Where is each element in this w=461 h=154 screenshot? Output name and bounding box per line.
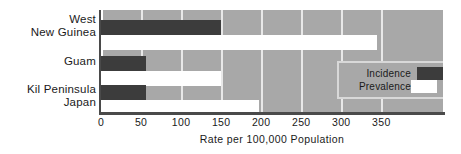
x-tick-label-100: 100 [172,116,190,128]
plot-area: Incidence Prevalence [101,10,443,113]
gridline-250 [301,10,303,113]
x-tick-label-200: 200 [252,116,270,128]
x-tick-label-300: 300 [332,116,350,128]
bar-incidence-guam [101,56,146,71]
category-label-guam: Guam [0,55,96,68]
x-axis-tick-labels: 050100150200250300350 [0,116,461,132]
x-tick-label-50: 50 [135,116,147,128]
bar-prevalence-guam [101,71,221,86]
gridline-200 [261,10,263,113]
legend-swatch-prevalence [411,80,437,93]
bar-prevalence-west-new-guinea [101,35,377,50]
bar-incidence-kil-peninsula-japan [101,85,146,100]
legend-label-incidence: Incidence [339,67,411,80]
legend-item-prevalence: Prevalence [339,80,443,93]
bar-chart: West New Guinea Guam Kil Peninsula Japan… [0,0,461,154]
category-axis-labels: West New Guinea Guam Kil Peninsula Japan [0,10,96,113]
gridline-150 [221,10,223,113]
x-tick-label-250: 250 [292,116,310,128]
x-tick-label-150: 150 [212,116,230,128]
chart-legend: Incidence Prevalence [337,61,443,99]
legend-swatch-incidence [417,67,443,80]
legend-label-prevalence: Prevalence [339,80,411,93]
x-tick-label-0: 0 [98,116,104,128]
category-label-kil-peninsula-japan: Kil Peninsula Japan [0,83,96,109]
y-axis-line [99,10,101,113]
bar-incidence-west-new-guinea [101,20,221,35]
x-tick-label-350: 350 [372,116,390,128]
legend-item-incidence: Incidence [339,67,443,80]
category-label-west-new-guinea: West New Guinea [0,13,96,39]
x-axis-line [99,112,445,115]
x-axis-title: Rate per 100,000 Population [101,133,443,145]
